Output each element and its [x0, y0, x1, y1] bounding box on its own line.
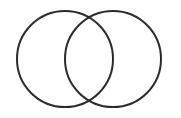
venn-diagram [0, 0, 181, 118]
